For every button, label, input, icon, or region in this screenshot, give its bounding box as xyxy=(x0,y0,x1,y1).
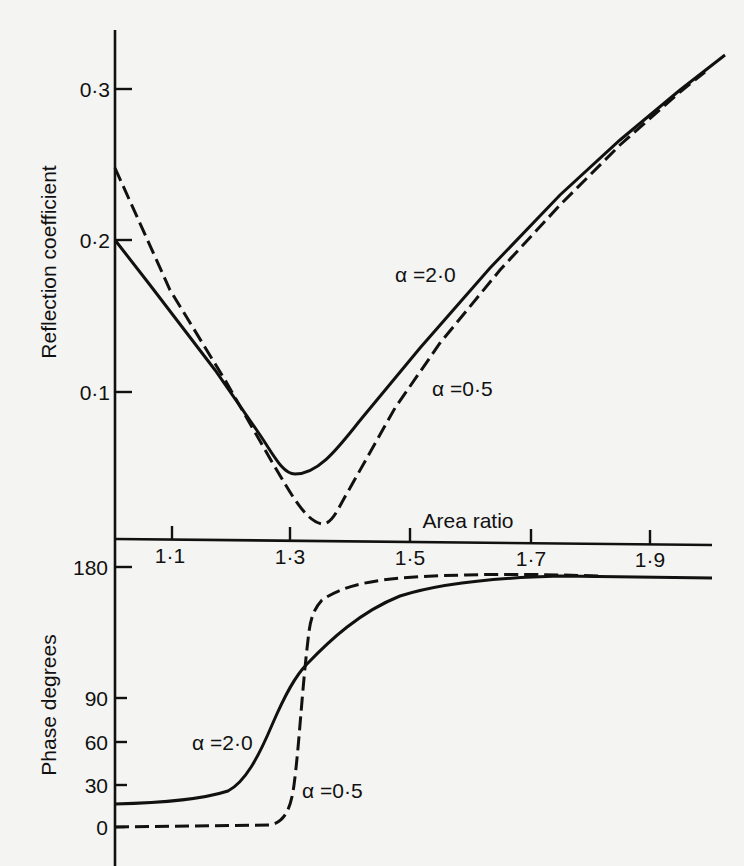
y-axis-title: Phase degrees xyxy=(37,634,60,775)
y-axis-title: Reflection coefficient xyxy=(37,165,60,359)
x-tick-label: 1·5 xyxy=(395,546,425,569)
series-label-alpha-2: α =2·0 xyxy=(395,263,456,286)
x-axis-title: Area ratio xyxy=(422,509,513,532)
series-label-alpha-05: α =0·5 xyxy=(302,779,363,802)
y-tick-label: 30 xyxy=(85,774,108,797)
y-tick-label: 0 xyxy=(96,816,108,839)
x-tick-label: 1·1 xyxy=(155,544,185,567)
y-tick-label: 0·2 xyxy=(80,229,110,252)
y-tick-label: 180 xyxy=(73,556,108,579)
x-axis-line xyxy=(115,539,712,545)
y-tick-label: 0·3 xyxy=(80,78,110,101)
series-alpha-2-phase xyxy=(115,576,712,804)
series-alpha-05-line xyxy=(115,72,705,524)
series-label-alpha-05: α =0·5 xyxy=(432,377,493,400)
y-tick-label: 0·1 xyxy=(80,381,110,404)
y-tick-label: 90 xyxy=(85,687,108,710)
series-label-alpha-2: α =2·0 xyxy=(192,731,253,754)
phase-panel: 0 30 60 90 180 Phase degrees α =2·0 α =0… xyxy=(37,556,712,839)
reflection-panel: 0·3 0·2 0·1 1·1 1·3 1·5 1·7 1·9 Area rat… xyxy=(37,30,725,866)
x-tick-label: 1·3 xyxy=(275,545,305,568)
y-tick-label: 60 xyxy=(85,731,108,754)
x-tick-label: 1·7 xyxy=(516,547,546,570)
reflection-phase-chart: 0·3 0·2 0·1 1·1 1·3 1·5 1·7 1·9 Area rat… xyxy=(0,0,744,866)
x-tick-label: 1·9 xyxy=(635,548,665,571)
